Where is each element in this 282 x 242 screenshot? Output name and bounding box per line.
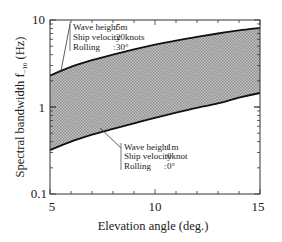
x-tick-label-10: 10: [149, 199, 162, 214]
chart: 10 1 0.1 5 10 15 Elevation angle (deg.) …: [0, 0, 282, 242]
lower-annotation: Wave height Ship velocity Rolling : : : …: [100, 128, 188, 171]
y-axis-label-sub: −10: [21, 62, 29, 73]
x-tick-label-5: 5: [49, 199, 56, 214]
svg-text:Spectral bandwidth f−10(Hz): Spectral bandwidth f−10(Hz): [13, 37, 29, 178]
y-axis-label: Spectral bandwidth f−10(Hz): [13, 37, 29, 178]
y-tick-label-0.1: 0.1: [31, 186, 47, 201]
y-axis-label-main: Spectral bandwidth f: [13, 73, 27, 178]
upper-annotation-value-0: 5m: [116, 22, 128, 32]
lower-annotation-value-2: 0°: [167, 161, 176, 171]
lower-annotation-label-2: Rolling: [124, 161, 152, 171]
upper-annotation-label-0: Wave height: [73, 22, 119, 32]
upper-annotation-value-1: 20knots: [116, 32, 145, 42]
upper-annotation-leader: [61, 24, 70, 71]
y-tick-label-10: 10: [32, 12, 45, 27]
upper-annotation-value-2: 30°: [116, 42, 129, 52]
x-axis-label: Elevation angle (deg.): [98, 219, 209, 233]
lower-annotation-value-1: 0knot: [167, 151, 188, 161]
y-tick-label-1: 1: [39, 100, 46, 115]
x-tick-label-15: 15: [252, 199, 265, 214]
lower-annotation-leader: [100, 128, 121, 148]
y-axis-label-unit: (Hz): [13, 37, 27, 60]
upper-annotation-label-2: Rolling: [73, 42, 101, 52]
